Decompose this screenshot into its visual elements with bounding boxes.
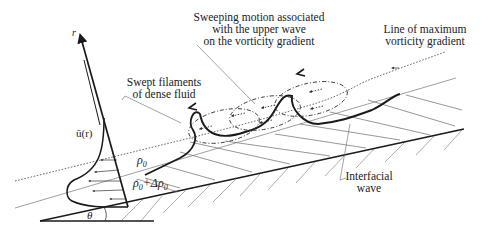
label-interfacial-wave: Interfacial wave xyxy=(345,170,392,194)
rho-dense-subscript-b: 0 xyxy=(164,183,168,192)
sweeping-label-line3: on the vorticity gradient xyxy=(204,35,316,48)
rotation-chevron-icons xyxy=(189,69,305,110)
r-axis-label: r xyxy=(72,27,76,38)
theta-arc xyxy=(104,207,106,221)
density-interface-line xyxy=(15,78,456,208)
label-swept-filaments: Swept filaments of dense fluid xyxy=(127,76,202,100)
rho0-plus-delta-label: ρ0+Δρ0 xyxy=(132,176,168,192)
ground-hatching xyxy=(122,130,462,222)
interfacial-wave xyxy=(145,94,400,175)
velocity-profile-label: ū(r) xyxy=(76,127,93,140)
max-vorticity-label-line2: vorticity gradient xyxy=(385,35,465,48)
interfacial-label-line1: Interfacial xyxy=(345,170,392,182)
swept-label-line2: of dense fluid xyxy=(132,88,195,100)
rho0-label: ρ0 xyxy=(136,153,147,169)
interfacial-label-line2: wave xyxy=(357,182,381,194)
max-vorticity-gradient-line xyxy=(15,52,445,181)
label-sweeping-motion: Sweeping motion associated with the uppe… xyxy=(194,11,325,48)
theta-label: θ xyxy=(87,209,93,221)
flow-schematic: Sweeping motion associated with the uppe… xyxy=(0,0,481,241)
max-vorticity-label-line1: Line of maximum xyxy=(383,23,466,35)
rho-dense-plus-delta: +Δρ xyxy=(143,176,164,190)
label-max-vorticity: Line of maximum vorticity gradient xyxy=(383,23,466,48)
rho-subscript: 0 xyxy=(143,160,147,169)
